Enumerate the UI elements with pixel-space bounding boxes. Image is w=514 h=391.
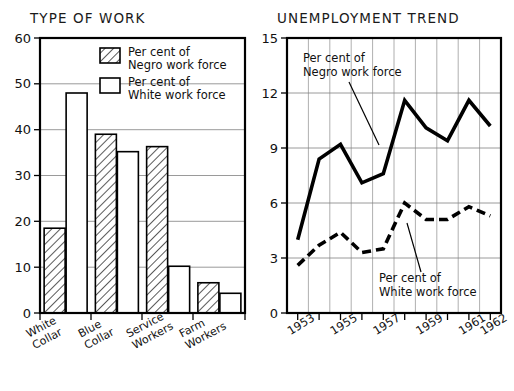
- line-ytick-6: 6: [270, 196, 278, 211]
- svg-text:1957: 1957: [370, 310, 402, 337]
- bar-chart-panel: TYPE OF WORK: [0, 0, 257, 391]
- bar-ytick-30: 30: [14, 168, 31, 183]
- legend-negro-line1: Per cent of: [128, 45, 191, 59]
- line-ytick-9: 9: [270, 141, 278, 156]
- bar-y-axis-labels: 0 10 20 30 40 50 60: [14, 31, 31, 321]
- line-ytick-15: 15: [261, 31, 278, 46]
- legend-negro-line2: Negro work force: [128, 58, 227, 72]
- bar-negro-0: [44, 228, 65, 313]
- bar-white-3: [220, 293, 241, 313]
- anno-negro-line1: Per cent of: [303, 51, 366, 65]
- legend-white-line1: Per cent of: [128, 75, 191, 89]
- bar-ytick-0: 0: [23, 306, 31, 321]
- bar-ytick-40: 40: [14, 122, 31, 137]
- line-xlabel-1959: 1959: [413, 310, 445, 337]
- bar-ytick-60: 60: [14, 31, 31, 46]
- line-chart-svg: 0 3 6 9 12 15 Per cent of Negro work for…: [257, 0, 514, 391]
- figure-root: TYPE OF WORK: [0, 0, 514, 391]
- bar-white-0: [66, 93, 87, 313]
- bar-ytick-20: 20: [14, 214, 31, 229]
- anno-white-line2: White work force: [379, 285, 477, 299]
- line-y-axis-labels: 0 3 6 9 12 15: [261, 31, 278, 321]
- line-ytick-3: 3: [270, 251, 278, 266]
- svg-text:1953: 1953: [285, 310, 317, 337]
- bar-ytick-10: 10: [14, 260, 31, 275]
- bar-category-labels: White Collar Blue Collar Service Workers…: [24, 308, 229, 352]
- bar-negro-1: [95, 134, 116, 313]
- anno-negro-line2: Negro work force: [303, 65, 402, 79]
- legend-swatch-open: [100, 78, 120, 93]
- svg-text:1955: 1955: [328, 310, 360, 337]
- bar-negro-2: [147, 147, 168, 313]
- anno-white-line1: Per cent of: [379, 271, 442, 285]
- line-xlabel-1953: 1953: [285, 310, 317, 337]
- svg-text:1959: 1959: [413, 310, 445, 337]
- line-chart-panel: UNEMPLOYMENT TREND: [257, 0, 514, 391]
- legend-swatch-hatched: [100, 48, 120, 63]
- bar-white-1: [117, 152, 138, 313]
- bar-ytick-50: 50: [14, 76, 31, 91]
- bar-white-2: [169, 266, 190, 313]
- line-x-axis-labels: 195319551957195919611962: [285, 310, 510, 337]
- line-xlabel-1957: 1957: [370, 310, 402, 337]
- line-xlabel-1955: 1955: [328, 310, 360, 337]
- line-ytick-12: 12: [261, 86, 278, 101]
- bar-chart-svg: 0 10 20 30 40 50 60 W: [0, 0, 257, 391]
- line-ytick-0: 0: [270, 306, 278, 321]
- legend-white-line2: White work force: [128, 88, 226, 102]
- bar-negro-3: [198, 283, 219, 313]
